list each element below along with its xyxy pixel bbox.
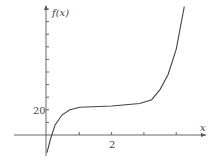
- x-axis-arrow-icon: [201, 133, 206, 137]
- y-axis-label: f(x): [51, 7, 69, 18]
- chart-canvas: f(x) x 20 2: [0, 0, 214, 163]
- y-tick-label-20: 20: [33, 105, 46, 116]
- x-tick-label-2: 2: [109, 139, 115, 150]
- function-curve: [47, 7, 184, 153]
- x-axis-label: x: [200, 122, 206, 133]
- axes: [14, 5, 206, 156]
